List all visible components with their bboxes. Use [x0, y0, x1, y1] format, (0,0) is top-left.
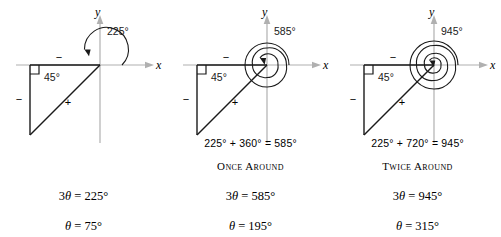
equation-value: 315° [415, 219, 439, 233]
diagram-svg-945: y x 945° 45° − − + [334, 0, 501, 150]
arc-arrowhead [260, 58, 266, 65]
coterminal-angles-figure: y x 225° 45° − − [0, 0, 501, 237]
right-angle-marker [197, 65, 206, 74]
right-angle-marker [30, 65, 39, 74]
equation-3theta: 3θ = 225° [0, 183, 167, 213]
x-axis-label: x [322, 58, 329, 72]
captions-225: 3θ = 225° θ = 75° [0, 138, 167, 237]
equation-theta: θ = 315° [334, 213, 501, 237]
sign-label-horizontal: − [223, 51, 229, 63]
y-axis [97, 15, 104, 143]
equation-operator: = [74, 189, 81, 203]
equation-variable: θ [399, 189, 405, 203]
captions-585: 225° + 360° = 585° Once Around 3θ = 585°… [167, 138, 334, 237]
equation-operator: = [408, 189, 415, 203]
x-axis-label: x [155, 58, 162, 72]
sign-label-vertical: − [350, 93, 356, 105]
angle-value-label: 585° [274, 25, 296, 37]
equation-variable: θ [229, 219, 235, 233]
revolution-label: Once Around [167, 154, 334, 183]
captions-945: 225° + 720° = 945° Twice Around 3θ = 945… [334, 138, 501, 237]
equation-3theta: 3θ = 585° [167, 183, 334, 213]
reference-angle-label: 45° [378, 71, 394, 83]
sign-label-vertical: − [183, 93, 189, 105]
right-angle-marker [364, 65, 373, 74]
diagram-225: y x 225° 45° − − [0, 0, 167, 150]
equation-variable: θ [65, 189, 71, 203]
angle-panel-945: y x 945° 45° − − + [334, 0, 501, 237]
y-axis-label: y [428, 5, 435, 19]
equation-operator: = [74, 219, 81, 233]
diagram-svg-585: y x 585° 45° − − + [167, 0, 334, 150]
arc-arrowhead [84, 49, 90, 56]
diagram-945: y x 945° 45° − − + [334, 0, 501, 150]
y-axis [264, 15, 271, 143]
angle-value-label: 225° [107, 25, 129, 37]
angle-value-label: 945° [441, 25, 463, 37]
equation-value: 225° [84, 189, 108, 203]
equation-variable: θ [396, 219, 402, 233]
diagram-svg-225: y x 225° 45° − − [0, 0, 167, 150]
equation-theta: θ = 195° [167, 213, 334, 237]
equation-operator: = [238, 219, 245, 233]
equation-3theta: 3θ = 945° [334, 183, 501, 213]
equation-value: 75° [84, 219, 102, 233]
angle-panel-585: y x 585° 45° − − + [167, 0, 334, 237]
equation-operator: = [405, 219, 412, 233]
sign-label-hypotenuse: + [65, 96, 71, 108]
sign-label-horizontal: − [390, 51, 396, 63]
x-axis-label: x [489, 58, 496, 72]
reference-angle-label: 45° [44, 71, 60, 83]
sign-label-vertical: − [16, 93, 22, 105]
sign-label-hypotenuse: + [399, 96, 405, 108]
equation-value: 945° [418, 189, 442, 203]
y-axis-label: y [94, 5, 101, 19]
sign-label-horizontal: − [56, 51, 62, 63]
equation-operator: = [241, 189, 248, 203]
revolution-label: Twice Around [334, 154, 501, 183]
sum-equation: 225° + 360° = 585° [167, 138, 334, 154]
sign-label-hypotenuse: + [232, 96, 238, 108]
diagram-585: y x 585° 45° − − + [167, 0, 334, 150]
equation-value: 195° [248, 219, 272, 233]
y-axis-label: y [261, 5, 268, 19]
equation-variable: θ [232, 189, 238, 203]
reference-angle-label: 45° [211, 71, 227, 83]
equation-theta: θ = 75° [0, 213, 167, 237]
equation-variable: θ [65, 219, 71, 233]
equation-value: 585° [251, 189, 275, 203]
y-axis [431, 15, 438, 143]
sum-equation: 225° + 720° = 945° [334, 138, 501, 154]
angle-panel-225: y x 225° 45° − − [0, 0, 167, 237]
